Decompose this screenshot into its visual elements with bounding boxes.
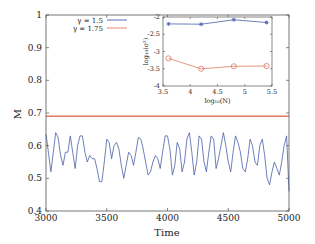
chart: 0.40.50.60.70.80.9130003500400045005000 … bbox=[0, 0, 315, 244]
y-tick-label: 0.6 bbox=[28, 141, 43, 151]
inset-y-tick-label: -2.5 bbox=[147, 30, 160, 38]
series-line bbox=[46, 133, 289, 192]
inset-axes-frame bbox=[163, 17, 272, 86]
inset-x-axis-title: log₁₀(N) bbox=[204, 97, 231, 105]
y-tick-label: 1 bbox=[36, 10, 42, 20]
inset-y-axis-title: log₁₀(σ²) bbox=[142, 37, 150, 65]
x-tick-label: 5000 bbox=[278, 213, 301, 223]
asterisk-marker bbox=[265, 21, 269, 25]
legend-label: γ = 1.75 bbox=[73, 25, 103, 33]
x-tick-label: 4000 bbox=[156, 213, 179, 223]
inset-x-tick-label: 3.5 bbox=[158, 88, 168, 96]
inset-x-tick-label: 5 bbox=[243, 88, 247, 96]
x-tick-label: 3500 bbox=[95, 213, 118, 223]
x-axis-title: Time bbox=[154, 227, 179, 238]
y-tick-label: 0.8 bbox=[28, 75, 43, 85]
asterisk-marker bbox=[166, 22, 170, 26]
x-tick-label: 3000 bbox=[35, 213, 58, 223]
y-tick-label: 0.5 bbox=[28, 173, 43, 183]
y-tick-label: 0.7 bbox=[28, 108, 43, 118]
inset-x-tick-label: 4 bbox=[188, 88, 192, 96]
legend: γ = 1.5γ = 1.75 bbox=[73, 17, 127, 33]
inset-x-tick-label: 5.5 bbox=[267, 88, 277, 96]
inset-plot-area: -4-3.5-3-2.5-23.544.555.5log₁₀(N)log₁₀(σ… bbox=[142, 13, 277, 105]
y-axis-title: M bbox=[12, 109, 23, 119]
inset-y-tick-label: -3 bbox=[154, 48, 160, 56]
x-tick-label: 4500 bbox=[217, 213, 240, 223]
inset-x-tick-label: 4.5 bbox=[212, 88, 222, 96]
inset-y-tick-label: -2 bbox=[154, 13, 160, 21]
y-tick-label: 0.9 bbox=[28, 43, 43, 53]
asterisk-marker bbox=[199, 22, 203, 26]
asterisk-marker bbox=[232, 18, 236, 22]
legend-label: γ = 1.5 bbox=[77, 17, 103, 25]
